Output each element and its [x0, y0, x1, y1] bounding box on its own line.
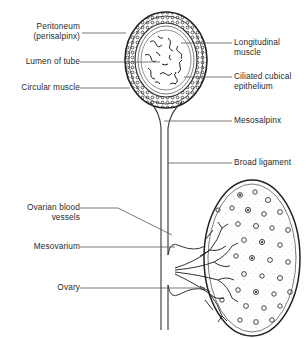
label-peritoneum: Peritoneum (perisalpinx) — [8, 22, 80, 41]
label-ciliated-cubical-epithelium: Ciliated cubical epithelium — [234, 72, 291, 91]
label-circular-muscle: Circular muscle — [2, 83, 80, 93]
label-mesovarium: Mesovarium — [2, 242, 80, 252]
label-broad-ligament: Broad ligament — [234, 158, 291, 168]
label-lumen-of-tube: Lumen of tube — [2, 57, 80, 67]
ovary-body — [168, 180, 300, 336]
label-mesosalpinx: Mesosalpinx — [234, 116, 281, 126]
label-ovarian-blood-vessels: Ovarian blood vessels — [2, 203, 80, 222]
label-longitudinal-muscle: Longitudinal muscle — [234, 38, 280, 57]
fallopian-tube-section — [125, 12, 207, 330]
label-ovary: Ovary — [2, 283, 80, 293]
